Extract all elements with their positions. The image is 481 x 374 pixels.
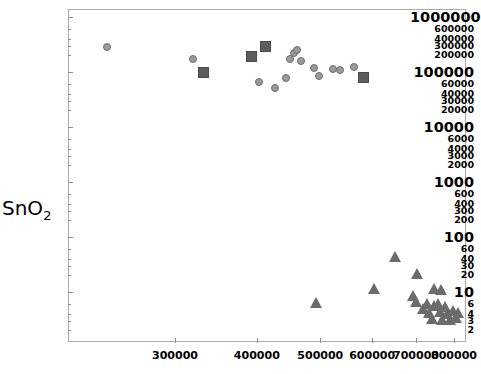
y-axis-tick-mark: [68, 101, 71, 102]
y-axis-tick-label: 100000: [410, 65, 474, 80]
y-axis-label-subscript: 2: [43, 208, 51, 223]
y-axis-tick-label: 600: [410, 189, 474, 199]
y-axis-tick-mark: [68, 292, 73, 293]
y-axis-tick-mark: [68, 29, 71, 30]
y-axis-tick-label: 6000: [410, 134, 474, 144]
y-axis-tick-label: 2000: [410, 161, 474, 171]
y-axis-tick-label: 200: [410, 216, 474, 226]
data-point-circle: [350, 63, 358, 71]
y-axis-tick-mark: [68, 17, 73, 18]
x-axis-tick-label: 400000: [234, 350, 280, 361]
data-point-square: [198, 67, 209, 78]
x-axis-tick-mark: [372, 338, 373, 343]
y-axis-tick-mark: [68, 249, 71, 250]
y-axis-tick-label: 40000: [410, 89, 474, 99]
y-axis-tick-label: 10000: [410, 120, 474, 135]
data-point-circle: [255, 78, 263, 86]
y-axis-tick-mark: [68, 204, 71, 205]
y-axis-tick-mark: [68, 127, 73, 128]
data-point-triangle: [310, 297, 322, 308]
y-axis-tick-mark: [68, 39, 71, 40]
y-axis-tick-mark: [68, 139, 71, 140]
y-axis-tick-label: 600000: [410, 24, 474, 34]
y-axis-tick-mark: [68, 94, 71, 95]
x-axis-tick-mark: [175, 338, 176, 343]
y-axis-tick-mark: [68, 220, 71, 221]
y-axis-tick-label: 400: [410, 199, 474, 209]
y-axis-tick-label: 200000: [410, 51, 474, 61]
data-point-triangle: [368, 283, 380, 294]
y-axis-tick-label: 20000: [410, 106, 474, 116]
y-axis-tick-mark: [68, 314, 71, 315]
data-point-circle: [286, 55, 294, 63]
data-point-triangle: [411, 268, 423, 279]
data-point-circle: [282, 74, 290, 82]
x-axis-tick-mark: [416, 338, 417, 343]
y-axis-tick-mark: [68, 110, 71, 111]
y-axis-tick-label: 4000: [410, 144, 474, 154]
y-axis-tick-label: 1000000: [410, 10, 474, 25]
data-point-square: [246, 51, 257, 62]
y-axis-tick-mark: [68, 194, 71, 195]
y-axis-tick-mark: [68, 55, 71, 56]
y-axis-tick-mark: [68, 211, 71, 212]
y-axis-tick-mark: [68, 72, 73, 73]
data-point-square: [260, 41, 271, 52]
y-axis-tick-label: 1000: [410, 175, 474, 190]
x-axis-tick-mark: [257, 338, 258, 343]
x-axis-tick-mark: [320, 338, 321, 343]
y-axis-tick-label: 2: [410, 326, 474, 336]
y-axis-tick-label: 100: [410, 230, 474, 245]
data-point-square: [358, 72, 369, 83]
y-axis-tick-label: 40: [410, 254, 474, 264]
x-axis-tick-label: 600000: [349, 350, 395, 361]
y-axis-tick-mark: [68, 149, 71, 150]
y-axis-label: SnO2: [2, 198, 51, 222]
y-axis-tick-mark: [68, 275, 71, 276]
y-axis-tick-mark: [68, 304, 71, 305]
y-axis-tick-mark: [68, 165, 71, 166]
y-axis-tick-mark: [68, 84, 71, 85]
data-point-circle: [336, 66, 344, 74]
y-axis-tick-mark: [68, 156, 71, 157]
x-axis-tick-label: 300000: [152, 350, 198, 361]
y-axis-tick-label: 60000: [410, 79, 474, 89]
y-axis-tick-mark: [68, 46, 71, 47]
y-axis-label-base: SnO: [2, 196, 43, 220]
data-point-circle: [315, 72, 323, 80]
y-axis-tick-mark: [68, 259, 71, 260]
y-axis-tick-mark: [68, 330, 71, 331]
data-point-triangle: [452, 307, 464, 318]
y-axis-tick-label: 400000: [410, 34, 474, 44]
data-point-circle: [310, 64, 318, 72]
y-axis-tick-mark: [68, 321, 71, 322]
data-point-triangle: [389, 251, 401, 262]
y-axis-tick-mark: [68, 182, 73, 183]
x-axis-tick-mark: [454, 338, 455, 343]
y-axis-tick-mark: [68, 266, 71, 267]
y-axis-tick-label: 60: [410, 244, 474, 254]
x-axis-tick-label: 800000: [431, 350, 477, 361]
y-axis-tick-mark: [68, 237, 73, 238]
x-axis-tick-label: 500000: [297, 350, 343, 361]
data-point-triangle: [435, 284, 447, 295]
